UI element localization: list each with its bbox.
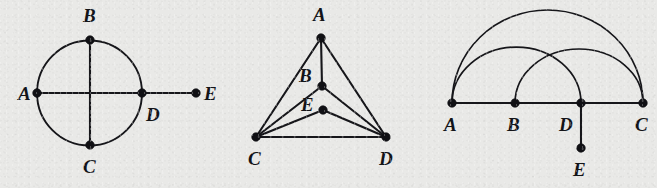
edge-b-d — [322, 86, 386, 137]
vertex-c — [252, 133, 261, 142]
vertex-label-c: C — [635, 114, 648, 135]
vertex-d — [577, 99, 586, 108]
vertex-e — [192, 89, 201, 98]
vertex-a — [317, 34, 326, 43]
graph-figure-svg: A B C D E A B C D E — [0, 0, 657, 188]
figure-root: A B C D E A B C D E — [0, 0, 657, 188]
vertex-label-a: A — [443, 114, 457, 135]
vertex-label-d: D — [378, 148, 393, 169]
vertex-label-c: C — [248, 148, 261, 169]
vertex-b — [511, 99, 520, 108]
vertex-d — [138, 89, 147, 98]
vertex-label-d: D — [558, 114, 573, 135]
vertex-d — [382, 133, 391, 142]
panel-arcs: A B D C E — [443, 10, 648, 180]
vertex-label-c: C — [83, 156, 96, 177]
vertex-label-b: B — [298, 65, 312, 86]
vertex-label-a: A — [17, 83, 31, 104]
vertex-e — [577, 144, 586, 153]
vertex-b — [86, 36, 95, 45]
vertex-a — [448, 99, 457, 108]
vertex-label-b: B — [82, 5, 96, 26]
arc-b-c — [515, 49, 643, 103]
vertex-b — [318, 82, 327, 91]
edge-a-b — [321, 38, 322, 86]
vertex-label-e: E — [572, 159, 586, 180]
vertex-e — [319, 106, 328, 115]
vertex-c — [639, 99, 648, 108]
vertex-c — [86, 141, 95, 150]
vertex-label-a: A — [312, 4, 326, 25]
vertex-label-d: D — [145, 104, 160, 125]
panel-triangle: A B C D E — [248, 4, 393, 169]
panel-circle: A B C D E — [17, 5, 217, 177]
vertex-label-e: E — [300, 94, 314, 115]
vertex-label-e: E — [203, 83, 217, 104]
edge-a-c — [256, 38, 321, 137]
vertex-label-b: B — [506, 114, 520, 135]
vertex-a — [33, 89, 42, 98]
